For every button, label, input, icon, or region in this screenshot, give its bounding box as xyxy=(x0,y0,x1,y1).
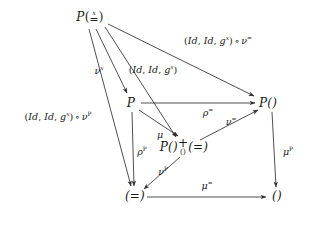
nu-sup: P xyxy=(164,166,168,172)
edge-label-center-to-bottomleft: νP xyxy=(158,167,168,177)
node-P: P xyxy=(127,97,135,109)
rho-sup: = xyxy=(208,107,213,113)
node-P-paren-label: P() xyxy=(259,96,277,110)
edge-label-topleft-to-center: (Id, Id, gx) xyxy=(129,65,178,75)
edge-label-midleft-to-bottomleft: ρP xyxy=(137,147,147,157)
node-P-x-eq: P(x=) xyxy=(76,11,103,24)
node-eq-label: (=) xyxy=(125,189,145,203)
node-P-plus-eq-plus-group: +() xyxy=(178,139,188,154)
rparen: ) xyxy=(229,35,233,46)
compose-icon: ∘ xyxy=(235,35,240,46)
id-1: Id xyxy=(132,64,142,75)
edge-label-bottomleft-to-bottomright: μ= xyxy=(201,181,212,191)
id-2: Id xyxy=(44,111,54,122)
edge-label-topleft-to-midleft: νx xyxy=(94,66,103,76)
id-2: Id xyxy=(148,64,158,75)
arrow-midright-to-bottomright xyxy=(272,112,276,187)
arrow-topleft-to-center xyxy=(105,27,176,137)
nu-sup: P xyxy=(87,111,91,117)
rparen: ) xyxy=(174,64,178,75)
node-P-label: P xyxy=(127,96,135,110)
node-P-plus-eq-left: P() xyxy=(160,140,178,154)
arrow-topleft-to-midleft xyxy=(96,29,127,93)
edge-label-midleft-to-midright: ρ= xyxy=(203,108,214,118)
id-1: Id xyxy=(188,35,198,46)
arrow-topleft-to-bottomleft xyxy=(89,29,131,186)
node-P-plus-eq: P()+()(=) xyxy=(160,139,208,154)
node-eq: (=) xyxy=(125,190,145,202)
nu-sup: = xyxy=(231,116,236,122)
id-2: Id xyxy=(204,35,214,46)
edge-label-topleft-to-midright: (Id, Id, gx) ∘ ν= xyxy=(184,36,252,46)
nu-sup: x xyxy=(100,65,103,71)
edge-label-midleft-to-center: μ xyxy=(157,130,163,140)
arrow-midleft-to-bottomleft xyxy=(132,112,134,186)
mu-sup: P xyxy=(289,146,293,152)
nu-sup: = xyxy=(247,35,252,41)
node-P-plus-eq-right: (=) xyxy=(188,140,208,154)
mu: μ xyxy=(157,129,163,140)
node-paren: () xyxy=(272,190,282,202)
edge-label-center-to-midright: ν= xyxy=(226,117,237,127)
commutative-diagram: P(x=) P P() P()+()(=) (=) () (Id, Id, gx… xyxy=(0,0,316,225)
rparen: ) xyxy=(69,111,73,122)
node-P-paren: P() xyxy=(259,97,277,109)
edge-label-topleft-to-bottomleft: (Id, Id, gx) ∘ νP xyxy=(25,112,92,122)
compose-icon: ∘ xyxy=(75,111,80,122)
node-P-x-eq-rparen: ) xyxy=(99,10,104,24)
id-1: Id xyxy=(28,111,38,122)
edge-label-midright-to-bottomright: μP xyxy=(283,147,293,157)
mu-sup: = xyxy=(208,180,213,186)
node-P-plus-eq-plus-sub: () xyxy=(180,149,186,155)
node-paren-label: () xyxy=(272,189,282,203)
rho-sup: P xyxy=(143,146,147,152)
